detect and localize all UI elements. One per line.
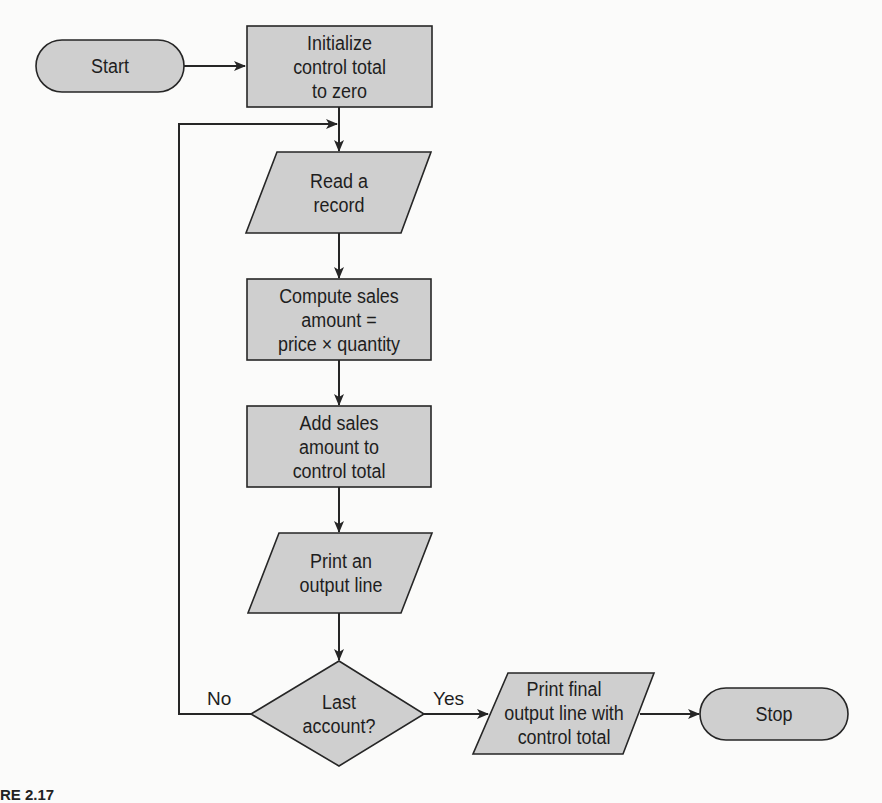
init-label: Initialize control total to zero (254, 31, 424, 103)
stop-label: Stop (706, 702, 842, 726)
print-label: Print an output line (270, 549, 412, 597)
add-label: Add sales amount to control total (254, 411, 423, 483)
print-final-label: Print final output line with control tot… (487, 677, 642, 749)
read-label: Read a record (268, 169, 410, 217)
edge-label-yes: Yes (433, 688, 464, 710)
edge-label-no: No (207, 688, 231, 710)
start-label: Start (42, 54, 178, 78)
compute-label: Compute sales amount = price × quantity (254, 284, 423, 356)
figure-caption: RE 2.17 (0, 786, 54, 803)
decision-label: Last account? (284, 690, 394, 738)
